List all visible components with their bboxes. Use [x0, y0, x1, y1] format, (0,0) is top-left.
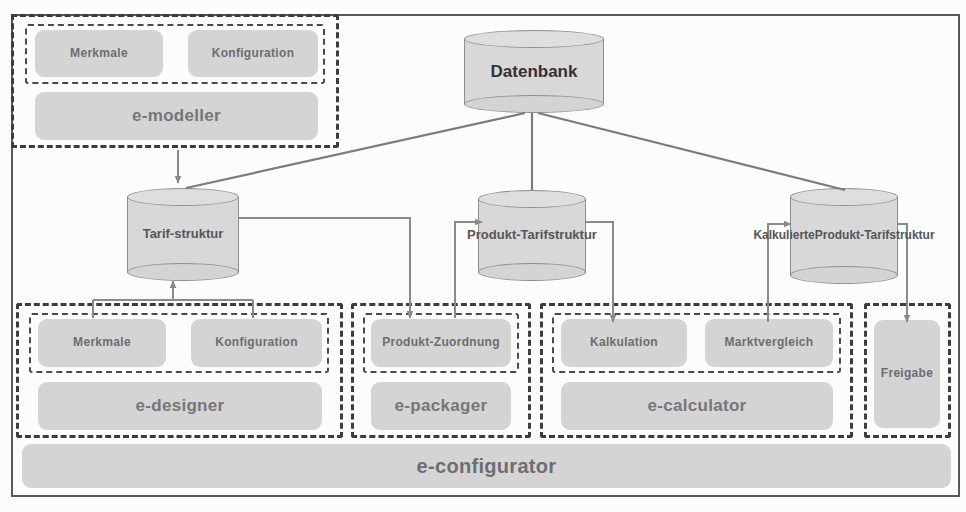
box-label-line: Zuordnung — [434, 336, 500, 350]
cylinder-kalkulierte-label: Kalkulierte Produkt- Tarifstruktur — [790, 188, 898, 284]
cylinder-label-line: Tarifstruktur — [864, 229, 934, 242]
cylinder-produkt-tarifstruktur-label: Produkt- Tarifstruktur — [478, 190, 586, 281]
cylinder-produkt-tarifstruktur[interactable]: Produkt- Tarifstruktur — [478, 190, 586, 281]
box-modeller-merkmale[interactable]: Merkmale — [35, 30, 163, 77]
cylinder-label-line: Tarif- — [143, 227, 175, 242]
cylinder-kalkulierte-produkt-tarifstruktur[interactable]: Kalkulierte Produkt- Tarifstruktur — [790, 188, 898, 284]
box-e-calculator[interactable]: e-calculator — [561, 382, 833, 430]
box-designer-merkmale[interactable]: Merkmale — [38, 319, 166, 367]
cylinder-datenbank[interactable]: Datenbank — [464, 30, 604, 113]
box-marktvergleich[interactable]: Marktvergleich — [705, 319, 833, 367]
cylinder-tarifstruktur[interactable]: Tarif- struktur — [127, 188, 239, 281]
cylinder-label-line: Produkt- — [467, 228, 520, 243]
cylinder-datenbank-label: Datenbank — [464, 30, 604, 113]
box-kalkulation[interactable]: Kalkulation — [561, 319, 687, 367]
box-e-modeller[interactable]: e-modeller — [35, 92, 318, 140]
box-e-configurator[interactable]: e-configurator — [22, 444, 951, 488]
diagram-canvas: Merkmale Konfiguration e-modeller Datenb… — [0, 0, 966, 512]
cylinder-label-line: Tarifstruktur — [521, 228, 597, 243]
box-designer-konfiguration[interactable]: Konfiguration — [191, 319, 322, 367]
box-modeller-konfiguration[interactable]: Konfiguration — [188, 30, 318, 77]
cylinder-label-line: Produkt- — [815, 229, 864, 242]
box-label-line: Produkt- — [382, 336, 434, 350]
box-produkt-zuordnung[interactable]: Produkt- Zuordnung — [371, 319, 511, 367]
cylinder-label-line: struktur — [174, 227, 223, 242]
cylinder-tarifstruktur-label: Tarif- struktur — [127, 188, 239, 281]
box-freigabe[interactable]: Freigabe — [874, 320, 940, 428]
box-e-designer[interactable]: e-designer — [38, 382, 322, 430]
cylinder-label-line: Kalkulierte — [753, 229, 814, 242]
box-e-packager[interactable]: e-packager — [371, 382, 511, 430]
